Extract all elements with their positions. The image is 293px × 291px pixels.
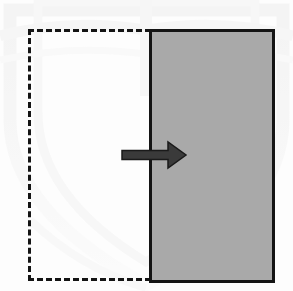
figure-title: Displaced block with load direction arro… [0,0,1,1]
shaded-block-rectangle [149,29,275,283]
dashed-reference-rectangle [28,29,160,281]
diagram-canvas: Displaced block with load direction arro… [0,0,293,291]
